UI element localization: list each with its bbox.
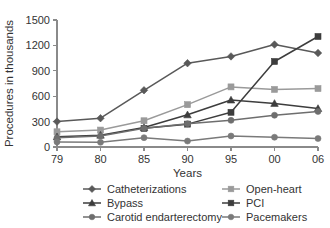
data-point-marker xyxy=(315,34,321,40)
data-point-marker xyxy=(185,102,191,108)
y-tick-label: 1200 xyxy=(26,39,50,51)
legend-item-carotid-endarterectomy[interactable]: Carotid endarterectomy xyxy=(83,211,222,223)
legend-label: PCI xyxy=(246,197,264,209)
line-chart: 03006009001200150079808590950006 YearsPr… xyxy=(0,0,330,228)
legend-label: Bypass xyxy=(107,197,144,209)
legend-label: Catheterizations xyxy=(107,183,187,195)
legend-item-bypass[interactable]: Bypass xyxy=(83,197,144,209)
data-point-marker xyxy=(272,86,278,92)
data-point-marker xyxy=(271,41,279,49)
chart-series-group xyxy=(53,34,322,146)
y-tick-label: 600 xyxy=(32,90,50,102)
x-tick-label: 85 xyxy=(138,153,150,165)
y-tick-label: 300 xyxy=(32,116,50,128)
legend-label: Pacemakers xyxy=(246,211,308,223)
legend-item-catheterizations[interactable]: Catheterizations xyxy=(83,183,187,195)
data-point-marker xyxy=(89,214,95,220)
x-tick-label: 80 xyxy=(94,153,106,165)
data-point-marker xyxy=(228,84,234,90)
data-point-marker xyxy=(228,186,234,192)
y-axis-title: Procedures in thousands xyxy=(3,20,15,147)
data-point-marker xyxy=(141,125,147,131)
x-tick-label: 00 xyxy=(268,153,280,165)
data-point-marker xyxy=(97,114,105,122)
data-point-marker xyxy=(228,133,234,139)
data-point-marker xyxy=(89,186,96,193)
legend-item-open-heart[interactable]: Open-heart xyxy=(222,183,302,195)
y-tick-label: 1500 xyxy=(26,14,50,26)
data-point-marker xyxy=(141,118,147,124)
data-point-marker xyxy=(315,108,321,114)
data-point-marker xyxy=(141,135,147,141)
x-tick-label: 06 xyxy=(312,153,324,165)
data-point-marker xyxy=(315,136,321,142)
data-point-marker xyxy=(185,121,191,127)
data-point-marker xyxy=(140,87,148,95)
legend-item-pci[interactable]: PCI xyxy=(222,197,264,209)
data-point-marker xyxy=(53,118,61,126)
axis-lines xyxy=(57,20,318,147)
x-axis-title: Years xyxy=(173,167,202,179)
data-point-marker xyxy=(272,58,278,64)
data-point-marker xyxy=(315,86,321,92)
chart-container: 03006009001200150079808590950006 YearsPr… xyxy=(0,0,330,228)
data-point-marker xyxy=(98,133,104,139)
data-point-marker xyxy=(54,139,60,145)
legend-label: Carotid endarterectomy xyxy=(107,211,222,223)
y-tick-label: 0 xyxy=(44,141,50,153)
data-point-marker xyxy=(228,214,234,220)
data-point-marker xyxy=(272,134,278,140)
x-tick-label: 79 xyxy=(51,153,63,165)
y-tick-label: 900 xyxy=(32,65,50,77)
data-point-marker xyxy=(184,59,192,67)
x-tick-label: 95 xyxy=(225,153,237,165)
series-line xyxy=(57,45,318,122)
legend-item-pacemakers[interactable]: Pacemakers xyxy=(222,211,308,223)
data-point-marker xyxy=(228,109,234,115)
legend-label: Open-heart xyxy=(246,183,302,195)
data-point-marker xyxy=(227,53,235,61)
data-point-marker xyxy=(228,117,234,123)
data-point-marker xyxy=(185,138,191,144)
data-point-marker xyxy=(228,200,234,206)
data-point-marker xyxy=(272,112,278,118)
data-point-marker xyxy=(98,139,104,145)
x-tick-label: 90 xyxy=(181,153,193,165)
chart-legend: CatheterizationsOpen-heartBypassPCICarot… xyxy=(83,183,308,223)
data-point-marker xyxy=(314,49,322,57)
